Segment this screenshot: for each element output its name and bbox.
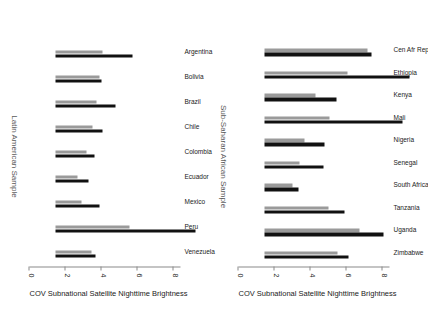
category-label: Mali bbox=[393, 113, 405, 120]
category-label: Kenya bbox=[393, 90, 411, 97]
bar-gray bbox=[55, 150, 86, 153]
axis-tick bbox=[172, 266, 173, 270]
category-label: Bolivia bbox=[184, 72, 203, 79]
axis-title-african: COV Subnational Satellite Nighttime Brig… bbox=[238, 288, 389, 298]
panel-title-latin: Latin American Sample bbox=[9, 0, 18, 312]
axis-tick bbox=[309, 266, 310, 270]
category-label: Uganda bbox=[393, 225, 416, 232]
bar-gray bbox=[55, 75, 99, 78]
category-label: Senegal bbox=[393, 158, 417, 165]
axis-tick-label: 0 bbox=[27, 273, 34, 277]
bar-black bbox=[55, 229, 195, 232]
bar-gray bbox=[55, 225, 129, 228]
plot-area-african: Cen Afr RepEthiopiaKenyaMaliNigeriaSeneg… bbox=[264, 41, 389, 266]
bar-pair: Uganda bbox=[264, 228, 389, 236]
bar-gray bbox=[264, 48, 367, 51]
bar-black bbox=[264, 142, 324, 145]
category-label: Venezuela bbox=[184, 247, 214, 254]
bar-black bbox=[55, 79, 101, 82]
bar-pair: Cen Afr Rep bbox=[264, 48, 389, 56]
category-label: Colombia bbox=[184, 147, 211, 154]
bar-black bbox=[264, 165, 323, 168]
axis-tick-label: 8 bbox=[171, 273, 178, 277]
bar-pair: Senegal bbox=[264, 161, 389, 169]
axis-tick bbox=[64, 266, 65, 270]
bar-gray bbox=[55, 125, 92, 128]
panel-latin-american-sample: ArgentinaBoliviaBrazilChileColombiaEcuad… bbox=[0, 0, 208, 312]
bar-gray bbox=[55, 100, 96, 103]
category-label: Ethiopia bbox=[393, 68, 417, 75]
bar-gray bbox=[55, 175, 77, 178]
axis-tick-label: 4 bbox=[99, 273, 106, 277]
bar-gray bbox=[55, 250, 91, 253]
axis-tick bbox=[345, 266, 346, 270]
category-label: Ecuador bbox=[184, 172, 208, 179]
bar-gray bbox=[264, 206, 328, 209]
bar-pair: Brazil bbox=[55, 100, 180, 108]
bar-black bbox=[55, 179, 88, 182]
value-axis-latin bbox=[29, 266, 180, 267]
bar-black bbox=[55, 129, 102, 132]
bar-black bbox=[55, 254, 95, 257]
axis-tick bbox=[100, 266, 101, 270]
axis-tick-label: 4 bbox=[308, 273, 315, 277]
bar-black bbox=[264, 232, 383, 235]
axis-tick-label: 2 bbox=[272, 273, 279, 277]
panel-sub-saharan-african-sample: Cen Afr RepEthiopiaKenyaMaliNigeriaSeneg… bbox=[209, 0, 417, 312]
bar-pair: South Africa bbox=[264, 183, 389, 191]
plot-area-latin: ArgentinaBoliviaBrazilChileColombiaEcuad… bbox=[55, 41, 180, 266]
bar-gray bbox=[264, 161, 299, 164]
bar-pair: Bolivia bbox=[55, 75, 180, 83]
bar-black bbox=[55, 54, 132, 57]
bar-pair: Tanzania bbox=[264, 206, 389, 214]
axis-tick bbox=[273, 266, 274, 270]
bar-black bbox=[264, 97, 336, 100]
category-label: Tanzania bbox=[393, 203, 419, 210]
category-label: Nigeria bbox=[393, 135, 414, 142]
axis-tick-label: 6 bbox=[135, 273, 142, 277]
bar-pair: Zimbabwe bbox=[264, 251, 389, 259]
category-label: Chile bbox=[184, 122, 199, 129]
bar-black bbox=[264, 210, 344, 213]
bar-pair: Argentina bbox=[55, 50, 180, 58]
bar-black bbox=[264, 120, 402, 123]
category-label: South Africa bbox=[393, 180, 428, 187]
bar-pair: Peru bbox=[55, 225, 180, 233]
bar-pair: Chile bbox=[55, 125, 180, 133]
axis-title-latin: COV Subnational Satellite Nighttime Brig… bbox=[29, 288, 180, 298]
bar-gray bbox=[264, 228, 359, 231]
bar-gray bbox=[264, 116, 329, 119]
bar-gray bbox=[264, 93, 315, 96]
value-axis-african bbox=[238, 266, 389, 267]
bar-pair: Colombia bbox=[55, 150, 180, 158]
category-label: Zimbabwe bbox=[393, 248, 423, 255]
axis-tick bbox=[28, 266, 29, 270]
axis-tick bbox=[237, 266, 238, 270]
category-label: Peru bbox=[184, 222, 198, 229]
category-label: Cen Afr Rep bbox=[393, 45, 428, 52]
axis-tick bbox=[381, 266, 382, 270]
category-label: Argentina bbox=[184, 47, 212, 54]
category-label: Mexico bbox=[184, 197, 205, 204]
bar-pair: Kenya bbox=[264, 93, 389, 101]
axis-tick-label: 8 bbox=[380, 273, 387, 277]
bar-pair: Nigeria bbox=[264, 138, 389, 146]
bar-black bbox=[264, 255, 348, 258]
bar-pair: Venezuela bbox=[55, 250, 180, 258]
bar-black bbox=[264, 187, 298, 190]
axis-tick-label: 0 bbox=[236, 273, 243, 277]
bar-black bbox=[264, 75, 409, 78]
bar-gray bbox=[264, 183, 292, 186]
bar-gray bbox=[264, 251, 337, 254]
bar-pair: Ethiopia bbox=[264, 71, 389, 79]
category-label: Brazil bbox=[184, 97, 200, 104]
axis-tick-label: 6 bbox=[344, 273, 351, 277]
bar-gray bbox=[55, 200, 81, 203]
axis-tick-label: 2 bbox=[63, 273, 70, 277]
bar-gray bbox=[55, 50, 102, 53]
axis-tick bbox=[136, 266, 137, 270]
bar-gray bbox=[264, 71, 347, 74]
bar-black bbox=[264, 52, 371, 55]
